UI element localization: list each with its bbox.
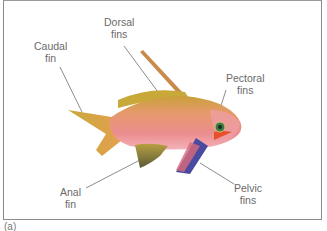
anal-fin xyxy=(135,144,168,168)
anal-leader-line xyxy=(86,160,140,188)
figure-caption: (a) xyxy=(4,221,16,231)
label-pelvic-fins: Pelvic fins xyxy=(234,182,262,206)
pelvic-leader-line xyxy=(200,163,234,184)
fish-illustration xyxy=(0,0,327,231)
dorsal-fin-ray xyxy=(140,50,185,97)
label-dorsal-fins: Dorsal fins xyxy=(104,16,134,40)
caudal-leader-line xyxy=(60,67,82,112)
label-anal-fin: Anal fin xyxy=(60,186,81,210)
label-pectoral-fins: Pectoral fins xyxy=(226,72,265,96)
label-caudal-fin: Caudal fin xyxy=(34,40,67,64)
